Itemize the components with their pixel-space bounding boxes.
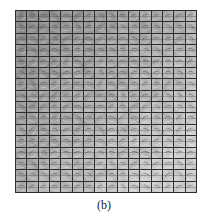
patch-cell <box>140 102 150 112</box>
patch-cell <box>174 57 184 67</box>
patch-cell <box>73 182 83 192</box>
patch-cell <box>118 91 128 101</box>
patch-cell <box>118 136 128 146</box>
patch-cell <box>118 113 128 123</box>
patch-cell <box>16 68 26 78</box>
patch-cell <box>163 102 173 112</box>
patch-cell <box>107 182 117 192</box>
patch-cell <box>95 113 105 123</box>
patch-cell <box>50 148 60 158</box>
patch-cell <box>95 45 105 55</box>
patch-cell <box>152 170 162 180</box>
patch-cell <box>73 113 83 123</box>
patch-cell <box>95 125 105 135</box>
patch-cell <box>50 22 60 32</box>
patch-cell <box>73 125 83 135</box>
patch-cell <box>140 182 150 192</box>
patch-cell <box>39 79 49 89</box>
patch-cell <box>107 79 117 89</box>
patch-cell <box>61 57 71 67</box>
patch-cell <box>129 113 139 123</box>
patch-cell <box>16 102 26 112</box>
patch-cell <box>16 159 26 169</box>
patch-cell <box>27 22 37 32</box>
patch-cell <box>16 45 26 55</box>
patch-cell <box>16 34 26 44</box>
patch-cell <box>129 91 139 101</box>
patch-cell <box>73 91 83 101</box>
patch-cell <box>129 45 139 55</box>
patch-cell <box>163 136 173 146</box>
patch-cell <box>174 148 184 158</box>
patch-cell <box>27 136 37 146</box>
patch-cell <box>140 68 150 78</box>
patch-cell <box>152 22 162 32</box>
patch-cell <box>129 79 139 89</box>
patch-cell <box>129 159 139 169</box>
patch-cell <box>16 170 26 180</box>
patch-cell <box>39 159 49 169</box>
patch-cell <box>174 136 184 146</box>
patch-cell <box>39 34 49 44</box>
patch-cell <box>39 68 49 78</box>
patch-cell <box>140 113 150 123</box>
patch-cell <box>27 57 37 67</box>
patch-cell <box>186 91 196 101</box>
patch-cell <box>16 22 26 32</box>
patch-cell <box>186 113 196 123</box>
patch-cell <box>61 136 71 146</box>
patch-cell <box>95 57 105 67</box>
patch-cell <box>95 148 105 158</box>
patch-cell <box>152 136 162 146</box>
patch-cell <box>174 113 184 123</box>
patch-cell <box>129 170 139 180</box>
patch-cell <box>84 91 94 101</box>
patch-cell <box>186 159 196 169</box>
patch-cell <box>61 45 71 55</box>
patch-cell <box>73 79 83 89</box>
patch-cell <box>174 102 184 112</box>
patch-cell <box>107 91 117 101</box>
patch-cell <box>50 45 60 55</box>
patch-cell <box>140 45 150 55</box>
patch-cell <box>73 22 83 32</box>
patch-cell <box>95 102 105 112</box>
patch-cell <box>39 45 49 55</box>
patch-cell <box>174 159 184 169</box>
patch-cell <box>107 22 117 32</box>
patch-cell <box>27 159 37 169</box>
patch-cell <box>107 148 117 158</box>
patch-cell <box>140 22 150 32</box>
patch-cell <box>118 79 128 89</box>
patch-cell <box>152 34 162 44</box>
patch-cell <box>27 182 37 192</box>
patch-cell <box>84 45 94 55</box>
patch-cell <box>84 136 94 146</box>
patch-cell <box>61 11 71 21</box>
patch-cell <box>129 136 139 146</box>
patch-cell <box>39 57 49 67</box>
patch-cell <box>107 45 117 55</box>
patch-cell <box>95 68 105 78</box>
patch-cell <box>61 102 71 112</box>
patch-cell <box>50 159 60 169</box>
patch-cell <box>152 68 162 78</box>
figure-caption: (b) <box>0 198 208 213</box>
patch-cell <box>107 170 117 180</box>
patch-cell <box>174 125 184 135</box>
patch-cell <box>140 159 150 169</box>
patch-cell <box>152 182 162 192</box>
patch-cell <box>163 45 173 55</box>
patch-cell <box>61 79 71 89</box>
patch-cell <box>16 11 26 21</box>
patch-cell <box>152 159 162 169</box>
patch-cell <box>152 113 162 123</box>
patch-cell <box>140 91 150 101</box>
patch-cell <box>163 159 173 169</box>
patch-cell <box>107 11 117 21</box>
patch-cell <box>163 34 173 44</box>
patch-cell <box>163 113 173 123</box>
patch-cell <box>50 102 60 112</box>
patch-cell <box>186 68 196 78</box>
patch-cell <box>118 34 128 44</box>
